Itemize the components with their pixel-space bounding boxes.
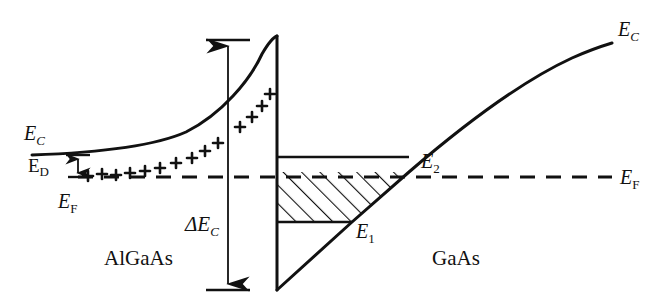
band-diagram-figure: EC ED EF ΔEC AlGaAs GaAs E2 E1 EC	[0, 0, 654, 307]
label-e2: E2	[420, 150, 440, 176]
ec-algaas-curve	[32, 36, 277, 155]
band-diagram-svg: EC ED EF ΔEC AlGaAs GaAs E2 E1 EC	[0, 0, 654, 307]
label-delta-ec: ΔEC	[184, 212, 219, 239]
label-ef-left: EF	[57, 190, 77, 216]
two-deg-hatched-region	[277, 172, 409, 222]
label-algaas: AlGaAs	[104, 246, 173, 270]
label-ed: ED	[28, 155, 49, 179]
label-ec-right: EC	[617, 18, 639, 44]
label-gaas: GaAs	[432, 246, 480, 270]
label-ef-right: EF	[619, 166, 639, 192]
label-ec-left: EC	[23, 122, 45, 148]
label-e1: E1	[355, 220, 375, 246]
